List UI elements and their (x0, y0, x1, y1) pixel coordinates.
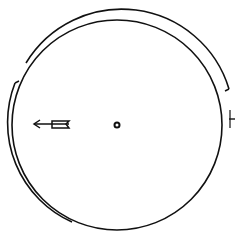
outer-arc-left-end-cap (15, 81, 19, 83)
arrow-left-icon (34, 120, 69, 128)
outer-arc-left (8, 83, 72, 222)
outer-arc-top-end-cap (225, 89, 229, 91)
center-dot (115, 123, 120, 128)
circle-diagram (0, 0, 235, 238)
main-circle (12, 20, 222, 230)
